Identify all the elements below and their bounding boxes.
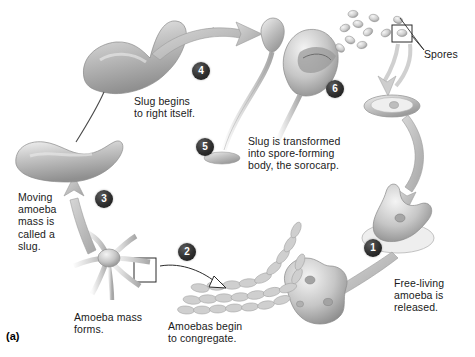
step-badge-3[interactable]: 3 xyxy=(95,190,113,208)
step-caption-5: Slug is transformed into spore-forming b… xyxy=(248,135,340,172)
germinating-cyst-illustration xyxy=(364,95,420,117)
spores-label: Spores xyxy=(424,48,458,60)
step-badge-1[interactable]: 1 xyxy=(364,239,382,257)
step-caption-4: Slug begins to right itself. xyxy=(134,95,195,119)
arrow-cyst-to-amoeba xyxy=(398,115,424,212)
step-badge-2[interactable]: 2 xyxy=(178,243,196,261)
free-living-amoeba-illustration xyxy=(284,258,347,324)
step-caption-3: Moving amoeba mass is called a slug. xyxy=(18,191,57,252)
amoeba-mass-label: Amoeba mass forms. xyxy=(74,311,142,335)
arrowhead-callout-to-congregation xyxy=(209,276,226,288)
step-badge-6[interactable]: 6 xyxy=(326,80,344,98)
step-badge-5[interactable]: 5 xyxy=(196,138,214,156)
connector-line-4-to-3 xyxy=(76,92,104,142)
step-caption-2: Amoebas begin to congregate. xyxy=(168,320,242,344)
arrow-mass-to-slug xyxy=(64,176,96,254)
figure-part-label: (a) xyxy=(6,330,19,342)
congregating-amoebas-illustration xyxy=(177,221,307,315)
step-badge-4[interactable]: 4 xyxy=(192,62,210,80)
migrating-slug-illustration xyxy=(16,141,123,182)
arrow-spores-to-cyst xyxy=(384,44,410,86)
arrow-callout-to-congregation xyxy=(160,265,218,284)
slug-righting-illustration xyxy=(83,21,186,94)
step-caption-1: Free-living amoeba is released. xyxy=(394,277,444,314)
life-cycle-figure: 1 2 3 4 5 6 Free-living amoeba is releas… xyxy=(0,0,475,357)
